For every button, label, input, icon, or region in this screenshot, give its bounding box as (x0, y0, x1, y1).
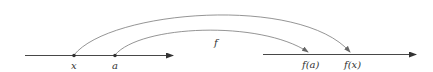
diagram-canvas: x a f(a) f(x) f (0, 0, 433, 72)
arc-x-to-fx (74, 15, 350, 55)
label-a: a (112, 60, 118, 71)
arc-a-to-fa (115, 30, 308, 55)
label-x: x (71, 60, 77, 71)
point-x (72, 54, 76, 58)
label-f: f (213, 37, 220, 48)
label-fx: f(x) (343, 59, 361, 70)
function-mapping-diagram: x a f(a) f(x) f (0, 0, 433, 72)
point-a (113, 54, 117, 58)
label-fa: f(a) (301, 59, 320, 70)
